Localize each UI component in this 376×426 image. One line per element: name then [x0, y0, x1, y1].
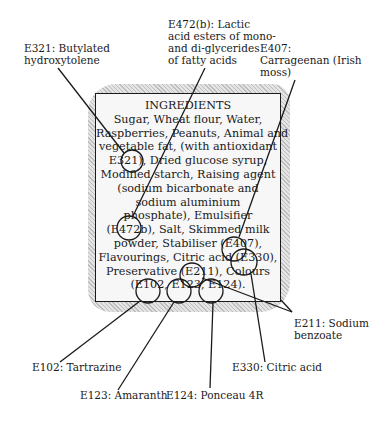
- circle-e211: [180, 263, 204, 287]
- circle-e321: [121, 150, 143, 172]
- callout-e102-line1: E102: Tartrazine: [32, 361, 121, 373]
- callout-e102: E102: Tartrazine: [32, 361, 121, 373]
- circle-e472b: [117, 216, 141, 240]
- callout-e123: E123: Amaranth: [80, 389, 167, 401]
- callout-e211-line2: benzoate: [294, 329, 369, 341]
- circle-e102: [136, 279, 160, 303]
- callout-e211: E211: Sodium benzoate: [294, 317, 369, 341]
- circle-e330: [231, 249, 257, 275]
- circle-e124: [199, 279, 223, 303]
- callout-e124: E124: Ponceau 4R: [166, 389, 263, 401]
- callout-e330-line1: E330: Citric acid: [232, 361, 322, 373]
- callout-e123-line1: E123: Amaranth: [80, 389, 167, 401]
- callout-e330: E330: Citric acid: [232, 361, 322, 373]
- circle-e123: [167, 279, 191, 303]
- callout-e211-line1: E211: Sodium: [294, 317, 369, 329]
- callout-e124-line1: E124: Ponceau 4R: [166, 389, 263, 401]
